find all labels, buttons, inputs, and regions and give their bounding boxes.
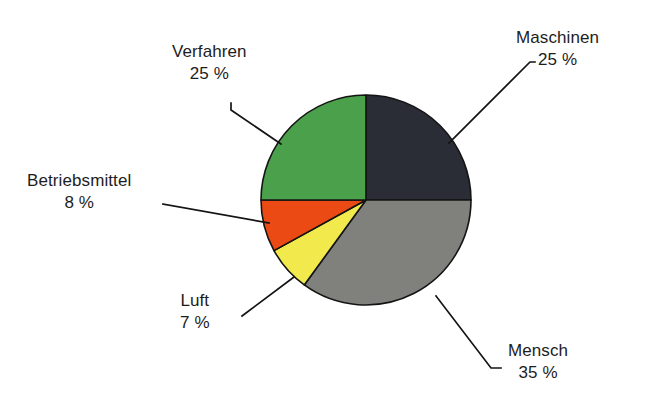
pie-slice-maschinen[interactable]: [366, 95, 471, 200]
pie-label-luft-name: Luft: [180, 290, 210, 312]
pie-label-mensch: Mensch 35 %: [508, 340, 568, 384]
pie-label-betriebsmittel-name: Betriebsmittel: [27, 170, 131, 192]
leader-line-maschinen: [449, 62, 535, 143]
pie-label-maschinen: Maschinen 25 %: [516, 27, 599, 71]
pie-label-maschinen-value: 25 %: [516, 49, 599, 71]
leader-line-luft: [242, 277, 294, 316]
pie-label-verfahren: Verfahren 25 %: [172, 41, 247, 85]
pie-label-luft-value: 7 %: [180, 312, 210, 334]
pie-label-mensch-name: Mensch: [508, 340, 568, 362]
pie-label-verfahren-name: Verfahren: [172, 41, 247, 63]
pie-label-betriebsmittel-value: 8 %: [27, 192, 131, 214]
pie-label-maschinen-name: Maschinen: [516, 27, 599, 49]
chart-canvas: Maschinen 25 % Verfahren 25 % Betriebsmi…: [0, 0, 654, 413]
pie-label-verfahren-value: 25 %: [172, 63, 247, 85]
leader-line-mensch: [436, 296, 501, 368]
leader-line-betriebsmittel: [163, 204, 269, 223]
pie-label-mensch-value: 35 %: [508, 362, 568, 384]
pie-label-betriebsmittel: Betriebsmittel 8 %: [27, 170, 131, 214]
pie-slice-verfahren[interactable]: [261, 95, 366, 200]
pie-slices: [261, 95, 471, 305]
leader-line-verfahren: [231, 103, 281, 144]
pie-label-luft: Luft 7 %: [180, 290, 210, 334]
